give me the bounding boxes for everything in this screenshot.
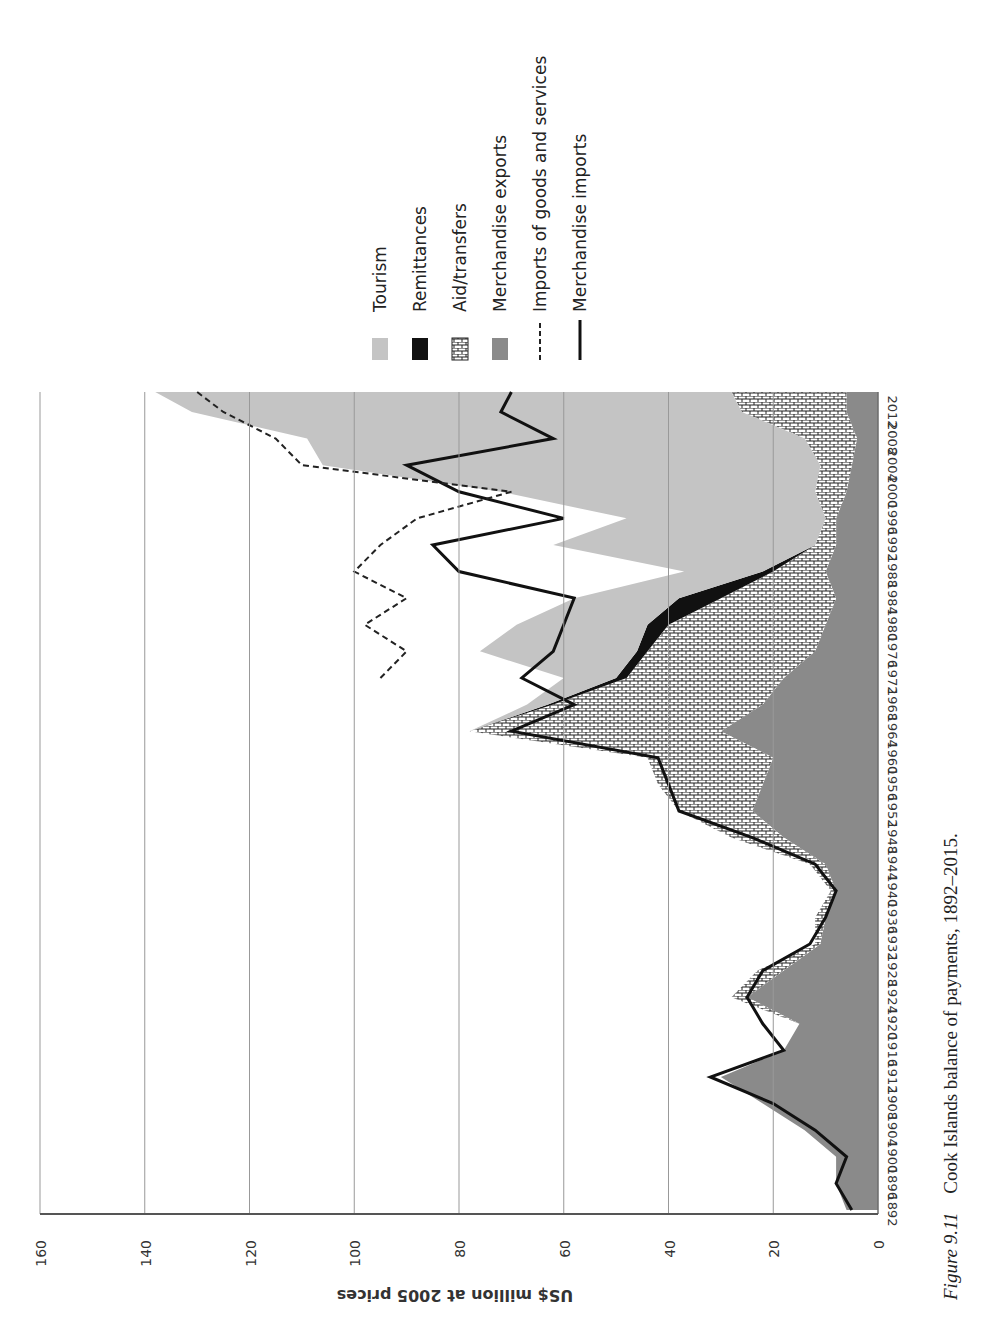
y-tick-label: 80: [452, 1240, 468, 1258]
y-tick-label: 120: [243, 1240, 259, 1267]
balance-of-payments-chart: 0204060801001201401601892189619001904190…: [0, 0, 991, 1322]
figure-page: 0204060801001201401601892189619001904190…: [0, 0, 991, 1322]
figure-caption: Figure 9.11 Cook Islands balance of paym…: [940, 833, 962, 1300]
y-tick-label: 20: [766, 1240, 782, 1258]
y-tick-label: 40: [662, 1240, 678, 1258]
y-tick-label: 60: [557, 1240, 573, 1258]
legend-label: Merchandise imports: [570, 134, 590, 312]
legend-label: Merchandise exports: [490, 135, 510, 312]
y-axis-label: US$ million at 2005 prices: [337, 1286, 574, 1305]
legend-label: Imports of goods and services: [530, 56, 550, 312]
plot-area: [155, 392, 878, 1210]
y-tick-label: 140: [138, 1240, 154, 1267]
legend-swatch: [372, 338, 388, 360]
x-tick-label: 2012: [885, 395, 900, 428]
legend-swatch: [452, 338, 468, 360]
legend: TourismRemittancesAid/transfersMerchandi…: [370, 56, 590, 360]
legend-swatch: [412, 338, 428, 360]
figure-title: Cook Islands balance of payments, 1892–2…: [940, 833, 961, 1193]
y-tick-label: 0: [871, 1240, 887, 1249]
legend-label: Tourism: [370, 246, 390, 313]
legend-label: Remittances: [410, 206, 430, 312]
figure-number: Figure 9.11: [940, 1212, 961, 1300]
legend-swatch: [492, 338, 508, 360]
y-tick-label: 160: [33, 1240, 49, 1267]
legend-label: Aid/transfers: [450, 203, 470, 312]
y-tick-label: 100: [347, 1240, 363, 1267]
